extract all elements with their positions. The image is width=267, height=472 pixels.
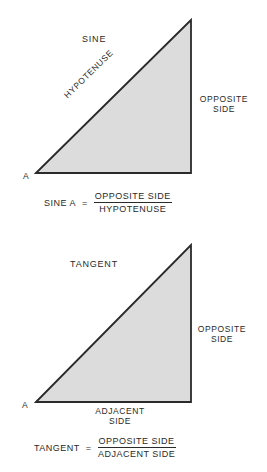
formula-numerator: OPPOSITE SIDE	[98, 436, 176, 448]
tangent-adjacent-label: ADJACENT SIDE	[85, 406, 155, 426]
tangent-title: TANGENT	[70, 259, 118, 269]
formula-equals: =	[86, 443, 92, 453]
sine-formula: SINE A = OPPOSITE SIDE HYPOTENUSE	[44, 191, 172, 215]
formula-lhs: SINE A	[44, 198, 76, 208]
opposite-line2: SIDE	[194, 334, 250, 344]
formula-lhs: TANGENT	[34, 443, 80, 453]
sine-opposite-label: OPPOSITE SIDE	[196, 94, 252, 114]
formula-denominator: ADJACENT SIDE	[98, 448, 175, 460]
triangles	[0, 0, 267, 472]
tangent-opposite-label: OPPOSITE SIDE	[194, 324, 250, 344]
sine-vertex-a: A	[23, 171, 29, 181]
adjacent-line1: ADJACENT	[85, 406, 155, 416]
opposite-line2: SIDE	[196, 104, 252, 114]
opposite-line1: OPPOSITE	[196, 94, 252, 104]
tangent-formula: TANGENT = OPPOSITE SIDE ADJACENT SIDE	[34, 436, 176, 460]
formula-equals: =	[82, 198, 88, 208]
formula-numerator: OPPOSITE SIDE	[94, 191, 172, 203]
adjacent-line2: SIDE	[85, 416, 155, 426]
formula-fraction: OPPOSITE SIDE ADJACENT SIDE	[98, 436, 176, 460]
tangent-vertex-a: A	[22, 400, 28, 410]
opposite-line1: OPPOSITE	[194, 324, 250, 334]
sine-title: SINE	[82, 34, 106, 44]
formula-fraction: OPPOSITE SIDE HYPOTENUSE	[94, 191, 172, 215]
sine-triangle	[36, 20, 191, 173]
formula-denominator: HYPOTENUSE	[99, 203, 166, 215]
